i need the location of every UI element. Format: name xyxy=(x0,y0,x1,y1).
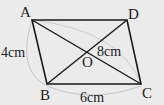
vertex-b-label: B xyxy=(40,87,50,103)
vertex-d-label: D xyxy=(128,6,139,22)
side-ab-length: 4cm xyxy=(1,45,25,60)
diagonal-length: 8cm xyxy=(97,44,121,59)
parallelogram-diagram: A D B C O 4cm 8cm 6cm xyxy=(0,0,164,105)
intersection-o-label: O xyxy=(82,54,93,70)
vertex-a-label: A xyxy=(20,4,31,20)
diagram-canvas: A D B C O 4cm 8cm 6cm xyxy=(0,0,164,105)
side-bc-length: 6cm xyxy=(80,90,104,105)
vertex-c-label: C xyxy=(142,85,152,101)
